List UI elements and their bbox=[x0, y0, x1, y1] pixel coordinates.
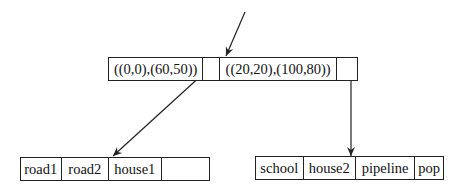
leaf-entry: pipeline bbox=[356, 157, 415, 179]
root-entry-1-pointer bbox=[203, 58, 220, 80]
root-entry-1-mbr: ((0,0),(60,50)) bbox=[109, 58, 203, 80]
leaf-entry: school bbox=[256, 157, 304, 179]
root-node: ((0,0),(60,50)) ((20,20),(100,80)) bbox=[108, 57, 358, 81]
root-entry-2-mbr: ((20,20),(100,80)) bbox=[220, 58, 337, 80]
leaf-entry-empty bbox=[162, 158, 209, 180]
leaf-entry: house1 bbox=[109, 158, 161, 180]
leaf-node-right: school house2 pipeline pop bbox=[255, 156, 444, 180]
leaf-entry: house2 bbox=[304, 157, 356, 179]
incoming-arrow bbox=[226, 12, 245, 56]
leaf-entry: road2 bbox=[62, 158, 110, 180]
leaf-node-left: road1 road2 house1 bbox=[20, 157, 210, 181]
leaf-entry: road1 bbox=[21, 158, 62, 180]
root-entry-2-pointer bbox=[337, 58, 357, 80]
leaf-entry: pop bbox=[415, 157, 443, 179]
